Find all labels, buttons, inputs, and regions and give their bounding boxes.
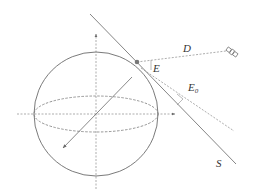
- tangent-plane-line: [90, 14, 236, 164]
- reference-dashed-line: [141, 68, 234, 131]
- label-E: E: [152, 62, 160, 74]
- line-of-sight-to-satellite: [137, 51, 226, 62]
- elevation-angle-diagram: D E E0 S: [0, 0, 254, 196]
- satellite-icon: [226, 47, 239, 58]
- label-E0-subscript: 0: [195, 87, 199, 95]
- label-E0: E0: [187, 81, 199, 95]
- observer-point: [135, 60, 140, 65]
- diagonal-axis: [63, 77, 132, 148]
- label-D: D: [182, 42, 191, 54]
- label-S: S: [216, 157, 222, 169]
